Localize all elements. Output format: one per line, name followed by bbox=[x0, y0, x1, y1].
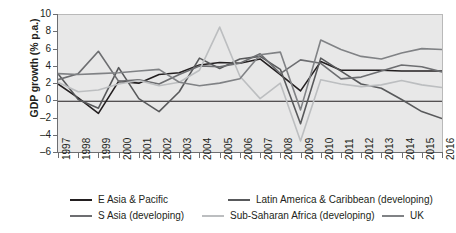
legend-item[interactable]: UK bbox=[382, 210, 424, 222]
x-axis-tick-label: 2015 bbox=[426, 138, 436, 160]
y-axis-tick-label: –4 bbox=[3, 130, 51, 140]
x-axis-tick-label: 2009 bbox=[305, 138, 315, 160]
y-axis-tick bbox=[53, 135, 58, 136]
x-axis-tick bbox=[78, 153, 79, 158]
legend-item[interactable]: Sub-Saharan Africa (developing) bbox=[202, 210, 375, 222]
x-axis-tick-label: 2010 bbox=[325, 138, 335, 160]
y-axis-tick bbox=[53, 66, 58, 67]
plot-area bbox=[58, 14, 443, 153]
y-axis-tick-label: 0 bbox=[3, 95, 51, 105]
legend-line-swatch bbox=[70, 215, 92, 217]
legend-line-swatch bbox=[228, 199, 250, 201]
y-axis-tick-label: 8 bbox=[3, 26, 51, 36]
legend-item[interactable]: S Asia (developing) bbox=[70, 210, 184, 222]
y-axis-tick bbox=[53, 31, 58, 32]
x-axis-tick bbox=[442, 153, 443, 158]
legend-label: E Asia & Pacific bbox=[98, 194, 168, 206]
y-axis-tick-label: 6 bbox=[3, 44, 51, 54]
y-axis-tick-label: –6 bbox=[3, 147, 51, 157]
legend-item[interactable]: E Asia & Pacific bbox=[70, 194, 168, 206]
x-axis-tick bbox=[260, 153, 261, 158]
y-axis-tick-label: 2 bbox=[3, 78, 51, 88]
y-axis-tick-label: –2 bbox=[3, 113, 51, 123]
legend-label: S Asia (developing) bbox=[98, 210, 184, 222]
x-axis-tick-label: 2001 bbox=[143, 138, 153, 160]
x-axis-tick-label: 2006 bbox=[244, 138, 254, 160]
x-axis-tick bbox=[220, 153, 221, 158]
x-axis-tick bbox=[361, 153, 362, 158]
y-axis-tick bbox=[53, 14, 58, 15]
y-axis-tick bbox=[53, 83, 58, 84]
x-axis-tick bbox=[321, 153, 322, 158]
x-axis-tick bbox=[139, 153, 140, 158]
x-axis-tick bbox=[58, 153, 59, 158]
x-axis-tick-label: 2005 bbox=[224, 138, 234, 160]
x-axis-tick bbox=[98, 153, 99, 158]
x-axis-tick-label: 2004 bbox=[203, 138, 213, 160]
x-axis-tick-label: 2003 bbox=[183, 138, 193, 160]
legend-line-swatch bbox=[382, 215, 404, 217]
legend-label: Sub-Saharan Africa (developing) bbox=[230, 210, 375, 222]
x-axis-tick-label: 2016 bbox=[446, 138, 456, 160]
x-axis-tick bbox=[199, 153, 200, 158]
x-axis-tick-label: 2000 bbox=[123, 138, 133, 160]
legend-label: UK bbox=[410, 210, 424, 222]
x-axis-tick bbox=[422, 153, 423, 158]
legend-line-swatch bbox=[70, 199, 92, 201]
x-axis-tick bbox=[179, 153, 180, 158]
x-axis-tick bbox=[280, 153, 281, 158]
x-axis-tick bbox=[341, 153, 342, 158]
x-axis-tick-label: 2002 bbox=[163, 138, 173, 160]
y-axis-tick bbox=[53, 118, 58, 119]
x-axis-tick bbox=[159, 153, 160, 158]
y-axis-tick-label: 10 bbox=[3, 9, 51, 19]
x-axis-tick-label: 2011 bbox=[345, 138, 355, 160]
x-axis-tick bbox=[119, 153, 120, 158]
x-axis-tick-label: 2007 bbox=[264, 138, 274, 160]
series-line bbox=[58, 27, 442, 141]
plot-svg bbox=[58, 15, 442, 153]
x-axis-tick-label: 1998 bbox=[82, 138, 92, 160]
y-axis-tick bbox=[53, 100, 58, 101]
x-axis-tick-label: 1999 bbox=[102, 138, 112, 160]
x-axis-tick-label: 2008 bbox=[284, 138, 294, 160]
legend-label: Latin America & Caribbean (developing) bbox=[256, 194, 433, 206]
x-axis-tick-label: 2013 bbox=[385, 138, 395, 160]
y-axis-tick bbox=[53, 152, 58, 153]
x-axis-tick-label: 2014 bbox=[406, 138, 416, 160]
chart-legend: E Asia & PacificLatin America & Caribbea… bbox=[0, 193, 452, 233]
x-axis-tick-label: 1997 bbox=[62, 138, 72, 160]
x-axis-tick bbox=[381, 153, 382, 158]
x-axis-tick bbox=[240, 153, 241, 158]
legend-line-swatch bbox=[202, 215, 224, 217]
y-axis-tick-label: 4 bbox=[3, 61, 51, 71]
legend-item[interactable]: Latin America & Caribbean (developing) bbox=[228, 194, 433, 206]
x-axis-tick bbox=[402, 153, 403, 158]
x-axis-tick-label: 2012 bbox=[365, 138, 375, 160]
y-axis-tick bbox=[53, 49, 58, 50]
x-axis-tick bbox=[301, 153, 302, 158]
